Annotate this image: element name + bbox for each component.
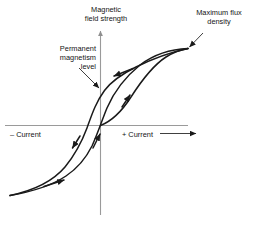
label-negative-current: – Current	[10, 130, 41, 139]
hysteresis-loop-svg	[0, 0, 255, 225]
label-permanent-magnetism-level: Permanent magnetism level	[44, 44, 96, 72]
descending-branch	[10, 49, 188, 196]
hysteresis-curves-group	[10, 49, 188, 196]
label-positive-current: + Current	[122, 130, 153, 139]
label-maximum-flux-density: Maximum flux density	[186, 8, 252, 26]
label-magnetic-field-strength: Magnetic field strength	[70, 5, 142, 23]
leader-lines-group	[79, 33, 203, 88]
arrow-lower-branch-rightward	[44, 180, 64, 187]
initial-magnetization-curve	[101, 49, 189, 126]
hysteresis-loop-figure: Magnetic field strength Maximum flux den…	[0, 0, 255, 225]
ascending-branch	[10, 49, 188, 196]
leader-maximum-flux-density	[190, 33, 204, 47]
